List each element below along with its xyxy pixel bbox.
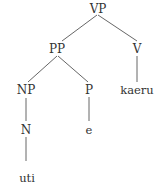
node-kaeru: kaeru	[120, 84, 154, 96]
node-uti: uti	[19, 172, 35, 184]
edge-vp-pp	[62, 15, 97, 41]
edge-vp-v	[98, 15, 137, 41]
node-pp: PP	[49, 43, 65, 55]
node-np: NP	[17, 84, 36, 96]
node-n: N	[21, 124, 32, 136]
edge-pp-p	[58, 56, 88, 82]
node-v: V	[133, 43, 142, 55]
syntax-tree-edges	[0, 0, 158, 195]
node-p: P	[85, 84, 93, 96]
node-e: e	[86, 124, 93, 136]
node-vp: VP	[90, 3, 107, 15]
edge-pp-np	[28, 56, 57, 82]
